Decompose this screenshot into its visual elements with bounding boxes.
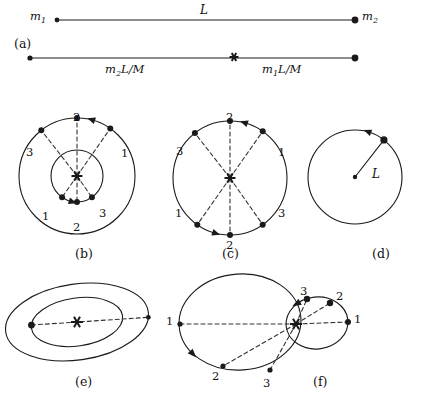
- panel-b-outer-radius-3: [41, 130, 77, 176]
- panel-e-com-chord: [31, 317, 148, 325]
- panel-c-body-0: [260, 128, 266, 134]
- panel-c-radius-0: [230, 131, 263, 178]
- panel-f-big-body-2: [220, 363, 225, 368]
- panel-b-inner-body-3: [89, 194, 95, 200]
- panel-b-outer-label-2: 2: [73, 112, 80, 124]
- panel-e-inner-body-dot: [28, 322, 35, 329]
- panel-b-inner-label-2: 2: [73, 222, 80, 234]
- panel-a-label-left-segment: m2L/M: [105, 64, 144, 78]
- panel-c-body-2: [192, 130, 198, 136]
- panel-c-direction-arrow-top: [240, 121, 249, 127]
- panel-a-bottom-right-dot: [352, 55, 359, 62]
- panel-d-label-radius-L: L: [372, 168, 380, 180]
- panel-b-outer-radius-1: [77, 128, 110, 176]
- panel-c-radius-3: [197, 178, 230, 225]
- panel-b-outer-label-3: 3: [26, 147, 33, 159]
- panel-c-radius-5: [230, 178, 263, 225]
- panel-f-small-label-3: 3: [300, 286, 307, 298]
- figure-canvas: m1m2Lm2L/Mm1L/M123123123123L123123(a)(b)…: [0, 0, 437, 405]
- figure-vector-art: [0, 0, 437, 405]
- panel-f-big-body-1: [177, 321, 182, 326]
- panel-f-big-label-2: 2: [212, 371, 219, 383]
- panel-a-bottom-left-dot: [27, 55, 32, 60]
- panel-b-inner-label-3: 3: [99, 208, 106, 220]
- panel-d-direction-arrow: [364, 130, 373, 136]
- panel-b-outer-body-3: [38, 127, 44, 133]
- panel-f-small-body-2: [327, 300, 333, 306]
- panel-letter-f: (f): [313, 376, 327, 389]
- panel-f-big-label-1: 1: [166, 316, 173, 328]
- panel-f-small-label-2: 2: [336, 291, 343, 303]
- panel-a-com-marker: [230, 53, 239, 61]
- panel-e-com-marker: [71, 317, 83, 327]
- panel-c-label-0: 1: [278, 147, 285, 159]
- panel-b-outer-direction-arrow: [87, 118, 96, 124]
- panel-letter-b: (b): [75, 248, 93, 261]
- panel-c-body-5: [260, 222, 266, 228]
- panel-b-outer-body-1: [107, 125, 113, 131]
- panel-letter-c: (c): [222, 248, 239, 261]
- panel-a-mass2-dot: [352, 17, 359, 24]
- panel-a-label-m1: m1: [30, 11, 46, 25]
- panel-f-big-ellipse: [176, 270, 304, 374]
- panel-a-label-separation-L: L: [200, 4, 208, 16]
- panel-c-label-1: 2: [226, 112, 233, 124]
- panel-f-big-radius-2: [223, 324, 296, 366]
- panel-b-inner-label-1: 1: [42, 211, 49, 223]
- panel-letter-a: (a): [14, 38, 31, 51]
- panel-b-inner-body-1: [59, 194, 65, 200]
- panel-c-label-2: 3: [176, 146, 183, 158]
- panel-letter-d: (d): [372, 248, 390, 261]
- panel-d-body-dot: [380, 136, 387, 143]
- panel-c-body-3: [194, 222, 200, 228]
- panel-f-big-label-3: 3: [263, 378, 270, 390]
- panel-f-small-radius-1: [296, 322, 348, 324]
- panel-c-radius-2: [195, 133, 230, 178]
- panel-a-label-m2: m2: [362, 11, 378, 25]
- panel-a-mass1-dot: [55, 18, 60, 23]
- panel-c-label-5: 3: [278, 208, 285, 220]
- panel-b-outer-label-1: 1: [121, 148, 128, 160]
- panel-letter-e: (e): [75, 376, 92, 389]
- panel-c-label-3: 1: [175, 208, 182, 220]
- panel-f-small-direction-arrow: [292, 299, 301, 306]
- panel-f-small-label-1: 1: [354, 314, 361, 326]
- panel-e-outer-body-dot: [146, 315, 151, 320]
- panel-a-label-right-segment: m1L/M: [262, 64, 301, 78]
- panel-f-small-body-1: [345, 319, 351, 325]
- panel-c-direction-arrow-bottom: [211, 229, 220, 235]
- panel-f-big-body-3: [267, 367, 272, 372]
